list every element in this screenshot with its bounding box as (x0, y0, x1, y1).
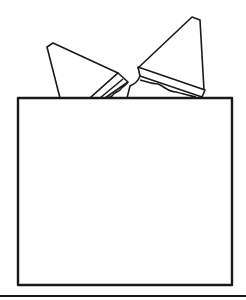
box (18, 98, 232, 285)
left-sandwich-half (47, 43, 128, 98)
right-sandwich-half (127, 17, 205, 98)
sandwich-box-illustration (0, 0, 246, 300)
